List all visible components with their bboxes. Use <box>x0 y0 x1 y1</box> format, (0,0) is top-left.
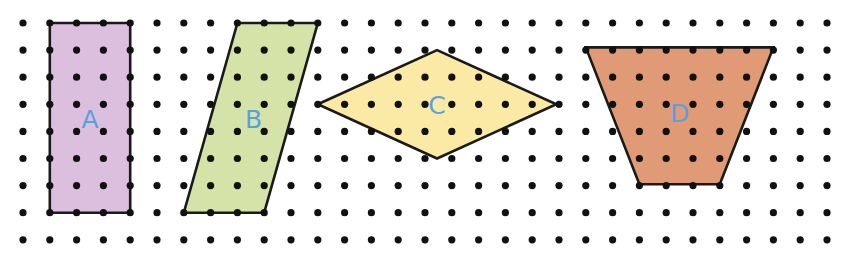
grid-dot <box>529 101 536 108</box>
grid-dot <box>234 19 241 26</box>
grid-dot <box>475 182 482 189</box>
grid-dot <box>555 209 562 216</box>
grid-dot <box>153 101 160 108</box>
grid-dot <box>207 47 214 54</box>
grid-dot <box>770 155 777 162</box>
grid-dot <box>716 74 723 81</box>
grid-dot <box>582 19 589 26</box>
grid-dot <box>448 209 455 216</box>
grid-dot <box>207 155 214 162</box>
grid-dot <box>287 182 294 189</box>
grid-dot <box>234 101 241 108</box>
grid-dot <box>261 155 268 162</box>
grid-dot <box>368 74 375 81</box>
grid-dot <box>19 74 26 81</box>
grid-dot <box>502 101 509 108</box>
grid-dot <box>609 182 616 189</box>
grid-dot <box>100 47 107 54</box>
grid-dot <box>234 209 241 216</box>
grid-dot <box>314 19 321 26</box>
grid-dot <box>73 155 80 162</box>
grid-dot <box>421 74 428 81</box>
grid-dot <box>609 19 616 26</box>
grid-dot <box>287 236 294 243</box>
grid-dot <box>395 209 402 216</box>
grid-dot <box>797 19 804 26</box>
grid-dot <box>127 74 134 81</box>
grid-dot <box>234 128 241 135</box>
grid-dot <box>475 209 482 216</box>
grid-dot <box>180 74 187 81</box>
grid-dot <box>582 155 589 162</box>
grid-dot <box>180 101 187 108</box>
grid-dot <box>287 128 294 135</box>
grid-dot <box>689 101 696 108</box>
grid-dot <box>716 182 723 189</box>
grid-dot <box>368 101 375 108</box>
grid-dot <box>73 74 80 81</box>
grid-dot <box>502 209 509 216</box>
grid-dot <box>448 155 455 162</box>
grid-dot <box>663 19 670 26</box>
grid-dot <box>314 47 321 54</box>
grid-dot <box>180 182 187 189</box>
grid-dot <box>689 19 696 26</box>
grid-dot <box>341 47 348 54</box>
grid-dot <box>341 128 348 135</box>
grid-dot <box>234 182 241 189</box>
grid-dot <box>636 236 643 243</box>
grid-dot <box>529 236 536 243</box>
grid-dot <box>46 209 53 216</box>
grid-dot <box>368 236 375 243</box>
grid-dot <box>395 101 402 108</box>
grid-dot <box>73 19 80 26</box>
grid-dot <box>19 128 26 135</box>
grid-dot <box>261 209 268 216</box>
grid-dot <box>73 236 80 243</box>
grid-dot <box>529 19 536 26</box>
grid-dot <box>555 236 562 243</box>
grid-dot <box>153 128 160 135</box>
grid-dot <box>448 19 455 26</box>
grid-dot <box>743 155 750 162</box>
grid-dot <box>823 101 830 108</box>
grid-dot <box>475 155 482 162</box>
grid-dot <box>555 182 562 189</box>
grid-dot <box>636 128 643 135</box>
grid-dot <box>797 182 804 189</box>
grid-dot <box>207 101 214 108</box>
grid-dot <box>46 155 53 162</box>
grid-dot <box>555 128 562 135</box>
grid-dot <box>582 101 589 108</box>
grid-dot <box>368 182 375 189</box>
grid-dot <box>582 236 589 243</box>
grid-dot <box>716 155 723 162</box>
grid-dot <box>529 47 536 54</box>
grid-dot <box>421 209 428 216</box>
grid-dot <box>636 209 643 216</box>
grid-dot <box>19 209 26 216</box>
grid-dot <box>234 155 241 162</box>
grid-dot <box>127 182 134 189</box>
grid-dot <box>529 155 536 162</box>
grid-dot <box>46 74 53 81</box>
grid-dot <box>770 182 777 189</box>
grid-dot <box>421 19 428 26</box>
grid-dot <box>421 182 428 189</box>
grid-dot <box>475 47 482 54</box>
grid-dot <box>743 74 750 81</box>
grid-dot <box>180 19 187 26</box>
grid-dot <box>19 236 26 243</box>
grid-dot <box>797 155 804 162</box>
grid-dot <box>770 209 777 216</box>
grid-dot <box>448 236 455 243</box>
grid-dot <box>797 209 804 216</box>
grid-dot <box>689 47 696 54</box>
shape-label-a: A <box>81 105 98 134</box>
grid-dot <box>770 236 777 243</box>
grid-dot <box>100 19 107 26</box>
grid-dot <box>689 74 696 81</box>
grid-dot <box>716 209 723 216</box>
grid-dot <box>743 101 750 108</box>
grid-dot <box>207 209 214 216</box>
